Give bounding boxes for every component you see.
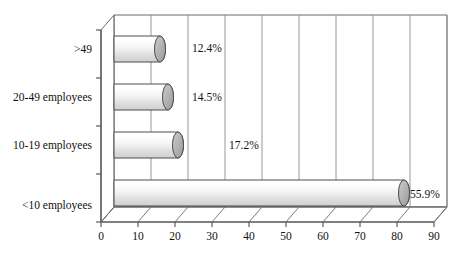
y-axis-ticks [96,30,101,222]
y-axis-label-gt49: >49 [0,43,92,55]
x-tick-label-60: 60 [309,230,337,242]
data-label-10-19: 17.2% [229,139,259,151]
bar-cylinder-20-49 [114,84,174,110]
x-tick-label-30: 30 [198,230,226,242]
x-tick-label-70: 70 [346,230,374,242]
bar-cylinder-lt10 [114,180,410,206]
x-tick-label-0: 0 [87,230,115,242]
bar-cylinder-gt49 [114,36,166,62]
bar-chart: >49 20-49 employees 10-19 employees <10 … [0,0,461,268]
x-tick-label-80: 80 [383,230,411,242]
data-label-gt49: 12.4% [192,42,222,54]
data-label-lt10: 55.9% [410,188,440,200]
bar-cylinder-10-19 [114,132,184,158]
y-axis-label-20-49: 20-49 employees [0,91,92,103]
x-tick-label-10: 10 [124,230,152,242]
x-tick-label-50: 50 [272,230,300,242]
x-tick-label-40: 40 [235,230,263,242]
x-axis-ticks [101,222,434,227]
data-label-20-49: 14.5% [192,91,222,103]
chart-canvas [0,0,461,268]
y-axis-label-lt10: <10 employees [0,199,92,211]
y-axis-label-10-19: 10-19 employees [0,139,92,151]
x-tick-label-90: 90 [420,230,448,242]
x-tick-label-20: 20 [161,230,189,242]
